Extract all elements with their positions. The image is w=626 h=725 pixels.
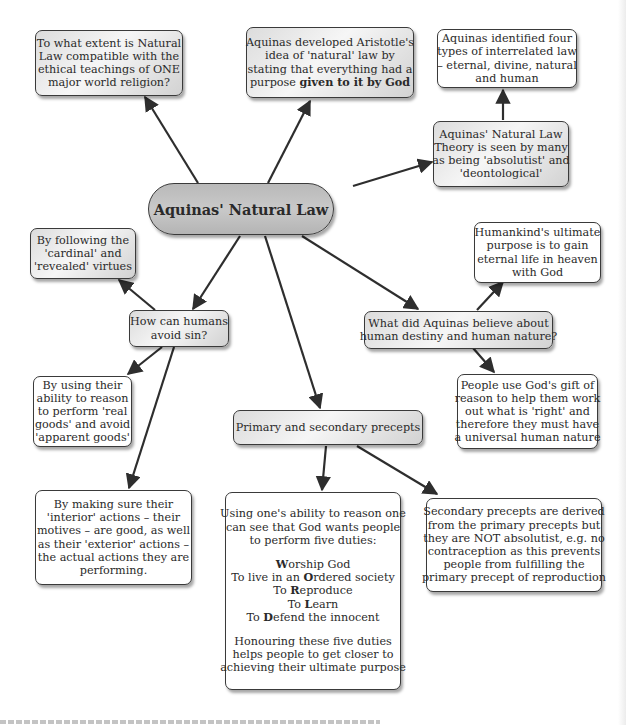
node-text: the actual actions they are (38, 551, 189, 564)
question-religion-box: To what extent is Natural Law compatible… (35, 30, 183, 96)
node-text: 'deontological' (460, 167, 543, 180)
node-text: 'cardinal' and (44, 247, 121, 260)
precepts-box: Primary and secondary precepts (233, 410, 423, 445)
node-text: ability to reason (36, 392, 128, 405)
four-laws-box: Aquinas identified four types of interre… (437, 29, 577, 88)
duty-initial: R (290, 583, 299, 597)
duty-text: To (273, 584, 290, 597)
duty-text: rdered society (313, 571, 395, 584)
node-text: can see that God wants people (226, 521, 400, 534)
node-text: they are NOT absolutist, e.g. no (423, 532, 604, 545)
node-text: Humankind's ultimate (475, 226, 601, 239)
node-text: How can humans (130, 315, 228, 328)
central-topic-label: Aquinas' Natural Law (154, 201, 329, 218)
node-text: Secondary precepts are derived (423, 505, 605, 518)
central-topic-node: Aquinas' Natural Law (148, 183, 334, 235)
node-text: from the primary precepts but (428, 519, 601, 532)
node-text: To what extent is Natural (37, 37, 181, 50)
node-text: people from fulfilling the (443, 558, 584, 571)
virtues-box: By following the 'cardinal' and 'reveale… (30, 228, 136, 279)
five-duties-box: Using one's ability to reason one can se… (225, 492, 401, 690)
node-text: eternal life in heaven (477, 253, 598, 266)
node-text: achieving their ultimate purpose (220, 661, 406, 674)
ultimate-purpose-box: Humankind's ultimate purpose is to gain … (474, 222, 601, 283)
node-text: By making sure their (54, 498, 173, 511)
node-text: purpose is to gain (487, 239, 589, 252)
node-text: as being 'absolutist' and (432, 154, 569, 167)
node-text: People use God's gift of (461, 379, 594, 392)
node-text: Theory is seen by many (434, 141, 568, 154)
reason-gift-box: People use God's gift of reason to help … (457, 374, 598, 449)
plain-text: purpose (250, 76, 300, 89)
duty-text: efend the innocent (273, 611, 380, 624)
human-destiny-box: What did Aquinas believe about human des… (364, 311, 553, 349)
node-text: a universal human nature (454, 431, 600, 444)
node-text: What did Aquinas believe about (368, 317, 548, 330)
node-text: contraception as this prevents (428, 545, 600, 558)
duty-initial: O (303, 570, 313, 584)
node-text: to perform five duties: (250, 534, 377, 547)
node-text: out what is 'right' and (465, 405, 590, 418)
duty-text: eproduce (300, 584, 353, 597)
node-text: avoid sin? (151, 329, 208, 342)
node-text: motives – are good, as well (37, 524, 190, 537)
duty-text: orship God (288, 558, 350, 571)
node-text: therefore they must have (456, 418, 599, 431)
node-text: 'interior' actions – their (47, 511, 180, 524)
node-text: and human (475, 72, 539, 85)
node-text: as their 'exterior' actions – (38, 538, 189, 551)
duty-item: To Reproduce (273, 584, 352, 597)
node-text: types of interrelated law (437, 45, 576, 58)
node-text: Aquinas identified four (442, 32, 572, 45)
node-text: performing. (80, 564, 147, 577)
duty-initial: D (263, 610, 273, 624)
node-text: major world religion? (48, 76, 170, 89)
duty-text: earn (312, 598, 338, 611)
duty-item: To live in an Ordered society (231, 571, 395, 584)
node-text: idea of 'natural' law by (265, 49, 395, 62)
duty-initial: W (276, 557, 289, 571)
node-text: reason to help them work (455, 392, 601, 405)
emphasis-text: given to it by God (299, 75, 410, 89)
aristotle-box: Aquinas developed Aristotle's idea of 'n… (246, 27, 414, 98)
node-text: to perform 'real (38, 405, 128, 418)
node-text: Honouring these five duties (234, 635, 392, 648)
node-text: Law compatible with the (39, 50, 179, 63)
node-text: with God (512, 266, 563, 279)
node-text: human destiny and human nature? (360, 330, 558, 343)
node-text: – eternal, divine, natural (437, 59, 577, 72)
node-text: primary precept of reproduction (422, 571, 606, 584)
avoid-sin-box: How can humans avoid sin? (129, 310, 229, 347)
duty-text: To (246, 611, 263, 624)
node-text: Aquinas developed Aristotle's (246, 36, 414, 49)
duty-item: To Learn (288, 598, 339, 611)
real-goods-box: By using their ability to reason to perf… (33, 376, 132, 447)
node-text: By following the (37, 234, 129, 247)
node-text: goods' and avoid (35, 418, 130, 431)
secondary-precepts-box: Secondary precepts are derived from the … (426, 498, 602, 592)
node-text: Primary and secondary precepts (236, 421, 421, 434)
node-text: 'revealed' virtues (34, 260, 132, 273)
node-text: Aquinas' Natural Law (439, 128, 562, 141)
node-text: helps people to get closer to (233, 648, 394, 661)
node-text: 'apparent goods' (35, 431, 130, 444)
duty-item: To Defend the innocent (246, 611, 379, 624)
node-text: ethical teachings of ONE (38, 63, 180, 76)
node-text: purpose given to it by God (250, 76, 410, 89)
node-text: By using their (43, 379, 123, 392)
duty-text: To (288, 598, 305, 611)
interior-actions-box: By making sure their 'interior' actions … (35, 490, 192, 585)
absolutist-box: Aquinas' Natural Law Theory is seen by m… (433, 121, 569, 187)
duty-text: To live in an (231, 571, 303, 584)
node-text: Using one's ability to reason one (220, 507, 406, 520)
